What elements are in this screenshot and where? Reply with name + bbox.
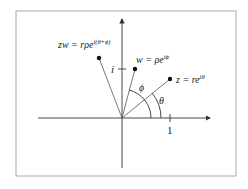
phi-label: ϕ xyxy=(139,82,144,93)
real-tick-label: 1 xyxy=(167,124,173,136)
point-w xyxy=(133,67,137,71)
point-zw xyxy=(97,56,101,60)
diagram-frame xyxy=(16,11,236,176)
theta-label: θ xyxy=(159,95,164,106)
complex-multiplication-diagram: 1 i θ ϕ z = reiθ w = ρeiϕ zw = rρei(θ+ϕ) xyxy=(0,0,248,189)
imag-tick-label: i xyxy=(111,63,114,75)
point-z xyxy=(168,77,172,81)
